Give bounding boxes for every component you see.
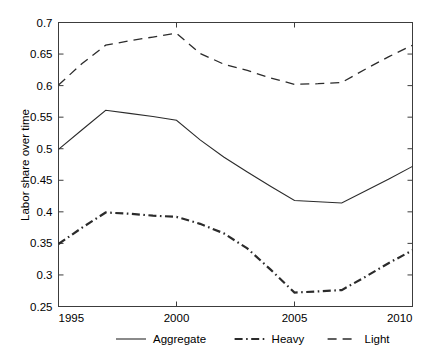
y-tick-label: 0.25 <box>30 301 52 313</box>
line-chart: Labor share over time 0.250.30.350.40.45… <box>0 0 437 362</box>
data-series-group <box>59 33 413 292</box>
y-tick-label: 0.6 <box>37 80 53 92</box>
y-tick-label: 0.7 <box>37 17 53 29</box>
y-tick-label: 0.3 <box>37 269 53 281</box>
legend-label-aggregate: Aggregate <box>153 333 206 345</box>
y-axis-title-text: Labor share over time <box>19 109 31 221</box>
y-tick-label: 0.55 <box>30 111 52 123</box>
y-axis-ticks: 0.250.30.350.40.450.50.550.60.650.7 <box>30 17 412 313</box>
y-tick-label: 0.5 <box>37 143 53 155</box>
legend-label-heavy: Heavy <box>272 333 305 345</box>
chart-legend: AggregateHeavyLight <box>116 333 390 345</box>
series-line-light <box>59 33 413 85</box>
x-tick-label: 2000 <box>164 312 190 324</box>
y-tick-label: 0.65 <box>30 48 52 60</box>
x-tick-label: 1995 <box>59 312 85 324</box>
series-line-aggregate <box>59 110 413 203</box>
series-line-heavy <box>59 212 413 292</box>
y-axis-title: Labor share over time <box>19 109 31 221</box>
chart-figure: Labor share over time 0.250.30.350.40.45… <box>0 0 437 362</box>
y-tick-label: 0.4 <box>37 206 54 218</box>
y-tick-label: 0.45 <box>30 174 52 186</box>
x-tick-label: 2005 <box>282 312 308 324</box>
x-tick-label: 2010 <box>387 312 413 324</box>
legend-label-light: Light <box>365 333 391 345</box>
y-tick-label: 0.35 <box>30 237 52 249</box>
